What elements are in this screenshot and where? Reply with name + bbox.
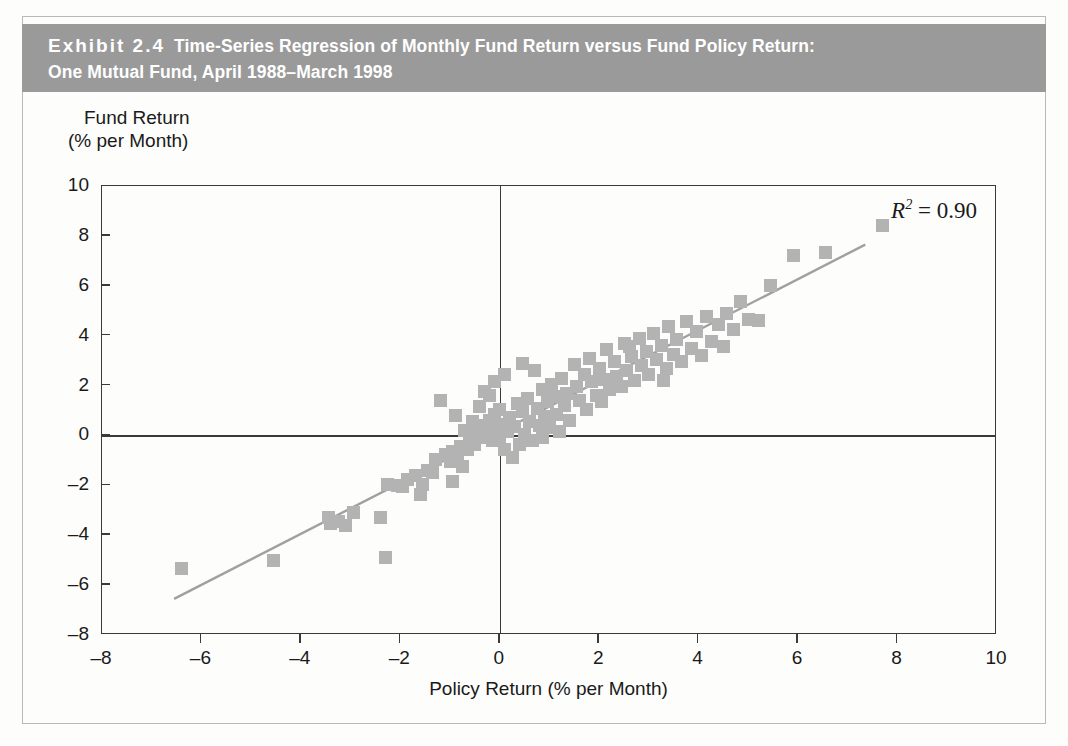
y-axis-label: Fund Return (% per Month) xyxy=(68,106,190,152)
scatter-point xyxy=(570,380,583,393)
scatter-point xyxy=(473,400,486,413)
scatter-point xyxy=(426,466,439,479)
scatter-point xyxy=(720,307,733,320)
y-tick-label: 6 xyxy=(45,275,89,294)
scatter-point xyxy=(414,488,427,501)
scatter-point xyxy=(752,314,765,327)
scatter-point xyxy=(657,374,670,387)
exhibit-title-banner: Exhibit 2.4Time-Series Regression of Mon… xyxy=(22,24,1046,92)
scatter-point xyxy=(712,318,725,331)
scatter-point xyxy=(498,368,511,381)
scatter-point xyxy=(456,460,469,473)
scatter-point xyxy=(628,374,641,387)
scatter-point xyxy=(595,395,608,408)
y-axis-label-line-2: (% per Month) xyxy=(68,129,190,152)
scatter-point xyxy=(558,399,571,412)
y-tick-label: –2 xyxy=(45,474,89,493)
scatter-point xyxy=(516,357,529,370)
scatter-point xyxy=(670,333,683,346)
y-tick-label: 2 xyxy=(45,375,89,394)
scatter-point xyxy=(787,249,800,262)
scatter-point xyxy=(347,506,360,519)
y-tick-label: –4 xyxy=(45,524,89,543)
r-squared-value: = 0.90 xyxy=(912,198,977,223)
x-tick-label: 0 xyxy=(469,648,529,667)
scatter-point xyxy=(379,551,392,564)
scatter-point xyxy=(449,409,462,422)
scatter-point xyxy=(446,475,459,488)
scatter-point xyxy=(580,403,593,416)
x-tick-mark xyxy=(697,634,699,643)
r-squared-symbol: R2 xyxy=(891,198,912,223)
scatter-point xyxy=(434,394,447,407)
x-tick-mark xyxy=(896,634,898,643)
plot-frame: R2 = 0.90 xyxy=(101,185,996,634)
x-tick-label: 10 xyxy=(966,648,1026,667)
scatter-point xyxy=(339,519,352,532)
scatter-point xyxy=(536,431,549,444)
scatter-point xyxy=(555,372,568,385)
r-squared-annotation: R2 = 0.90 xyxy=(891,196,977,224)
plot-inner-area xyxy=(102,186,995,633)
scatter-point xyxy=(675,355,688,368)
scatter-point xyxy=(615,380,628,393)
x-tick-label: –8 xyxy=(71,648,131,667)
x-axis-label: Policy Return (% per Month) xyxy=(101,678,996,700)
scatter-point xyxy=(727,323,740,336)
y-tick-label: 4 xyxy=(45,325,89,344)
scatter-point xyxy=(705,335,718,348)
scatter-point xyxy=(700,310,713,323)
scatter-point xyxy=(695,349,708,362)
x-tick-label: 4 xyxy=(668,648,728,667)
scatter-point xyxy=(876,219,889,232)
scatter-point xyxy=(655,339,668,352)
y-tick-label: –8 xyxy=(45,624,89,643)
x-tick-label: 2 xyxy=(568,648,628,667)
y-tick-label: –6 xyxy=(45,574,89,593)
y-tick-label: 10 xyxy=(45,175,89,194)
scatter-point xyxy=(267,554,280,567)
x-tick-label: 6 xyxy=(767,648,827,667)
scatter-chart: Fund Return (% per Month) –8–6–4–2024681… xyxy=(22,92,1046,724)
scatter-point xyxy=(717,340,730,353)
x-tick-label: –2 xyxy=(369,648,429,667)
x-tick-label: –6 xyxy=(170,648,230,667)
scatter-point xyxy=(642,368,655,381)
x-tick-label: 8 xyxy=(867,648,927,667)
scatter-point xyxy=(819,246,832,259)
x-tick-mark xyxy=(498,634,500,643)
x-tick-mark xyxy=(200,634,202,643)
scatter-point xyxy=(374,511,387,524)
scatter-point xyxy=(623,340,636,353)
scatter-point xyxy=(553,425,566,438)
x-tick-mark xyxy=(597,634,599,643)
exhibit-title-text-1: Time-Series Regression of Monthly Fund R… xyxy=(174,36,815,56)
exhibit-number-label: Exhibit 2.4 xyxy=(48,35,165,56)
scatter-point xyxy=(600,343,613,356)
scatter-point xyxy=(647,327,660,340)
x-tick-label: –4 xyxy=(270,648,330,667)
x-tick-mark xyxy=(796,634,798,643)
scatter-point xyxy=(660,362,673,375)
scatter-point xyxy=(603,383,616,396)
y-tick-label: 8 xyxy=(45,225,89,244)
exhibit-title-line-1: Exhibit 2.4Time-Series Regression of Mon… xyxy=(48,33,1046,59)
scatter-point xyxy=(483,389,496,402)
scatter-point xyxy=(175,562,188,575)
y-tick-label: 0 xyxy=(45,424,89,443)
y-axis-label-line-1: Fund Return xyxy=(68,106,190,129)
scatter-point xyxy=(528,364,541,377)
scatter-point xyxy=(608,355,621,368)
scatter-point xyxy=(734,295,747,308)
scatter-point xyxy=(662,320,675,333)
x-tick-mark xyxy=(299,634,301,643)
scatter-point xyxy=(506,451,519,464)
scatter-point xyxy=(690,325,703,338)
scatter-point xyxy=(585,375,598,388)
x-tick-mark xyxy=(399,634,401,643)
scatter-point xyxy=(764,279,777,292)
exhibit-title-line-2: One Mutual Fund, April 1988–March 1998 xyxy=(48,59,1046,85)
